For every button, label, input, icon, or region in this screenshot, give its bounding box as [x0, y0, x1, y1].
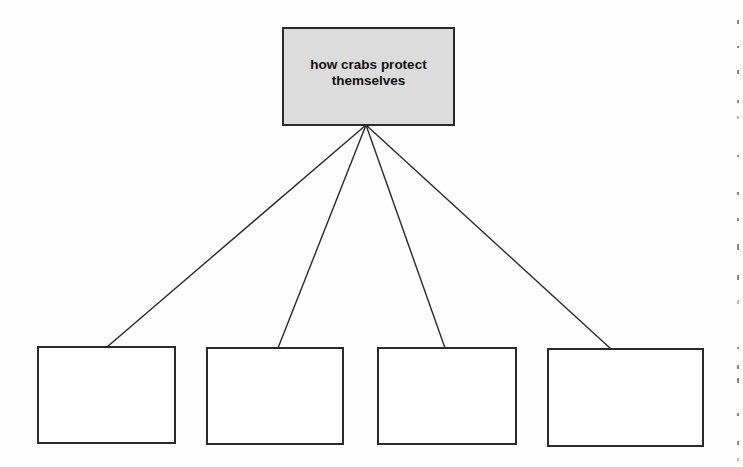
scan-speck [737, 378, 739, 383]
child-node-4[interactable] [547, 348, 704, 447]
scan-speck [737, 218, 739, 221]
scan-speck [737, 365, 739, 369]
scan-speck [737, 275, 739, 280]
connector-line-1 [107, 125, 366, 347]
diagram-canvas: how crabs protect themselves [0, 0, 743, 467]
root-node[interactable]: how crabs protect themselves [282, 27, 455, 126]
scan-speck [737, 300, 739, 304]
child-node-2[interactable] [206, 347, 344, 445]
scan-speck [737, 441, 739, 445]
connector-line-2 [278, 125, 366, 348]
connector-line-4 [366, 125, 611, 349]
scan-speck [737, 244, 739, 250]
scan-speck [737, 347, 739, 349]
scan-speck [737, 413, 739, 416]
root-node-label: how crabs protect themselves [299, 57, 439, 89]
scan-speck [737, 458, 739, 461]
scan-speck [737, 46, 739, 48]
scan-speck [737, 20, 739, 24]
child-node-1[interactable] [37, 346, 176, 444]
scan-speck [737, 192, 739, 195]
connector-line-3 [366, 125, 445, 348]
scan-edge-artifacts [733, 0, 743, 467]
scan-speck [737, 100, 739, 103]
scan-speck [737, 116, 739, 119]
scan-speck [737, 155, 739, 157]
scan-speck [737, 70, 739, 74]
child-node-3[interactable] [377, 347, 517, 445]
